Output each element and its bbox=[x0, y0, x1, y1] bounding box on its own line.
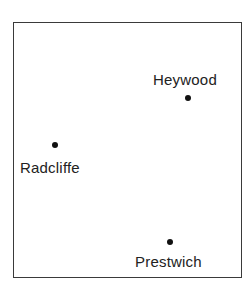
town-label-heywood: Heywood bbox=[153, 72, 217, 88]
town-marker-radcliffe bbox=[52, 142, 58, 148]
map-frame bbox=[13, 22, 242, 278]
town-marker-heywood bbox=[185, 95, 191, 101]
town-label-radcliffe: Radcliffe bbox=[20, 160, 80, 176]
town-label-prestwich: Prestwich bbox=[135, 254, 202, 270]
town-marker-prestwich bbox=[167, 239, 173, 245]
